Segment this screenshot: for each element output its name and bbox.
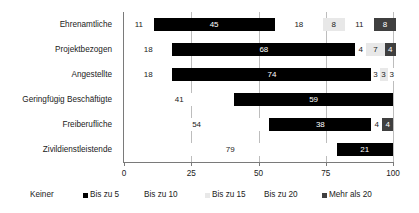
bar-segment-value: 68 xyxy=(259,45,268,54)
tick-mark xyxy=(326,162,327,166)
tick-mark xyxy=(124,162,125,166)
bar-segment: 7 xyxy=(366,43,385,56)
bar-segment: 4 xyxy=(385,43,396,56)
legend-label: Keiner xyxy=(30,190,54,200)
bar-row: 1145188118 xyxy=(124,12,393,37)
bar-row: 1874333 xyxy=(124,62,393,87)
legend-swatch-icon xyxy=(205,193,210,198)
bar-segment: 68 xyxy=(172,43,355,56)
bar-row: 7921 xyxy=(124,137,393,162)
bar-segment: 4 xyxy=(371,118,382,131)
category-label: Angestellte xyxy=(0,70,112,80)
bar-segment: 3 xyxy=(371,68,379,81)
bar-segment: 59 xyxy=(234,93,393,106)
stacked-bar-chart: EhrenamtlicheProjektbezogenAngestellteGe… xyxy=(0,0,419,213)
bar-segment-value: 3 xyxy=(373,70,377,79)
bar-segment: 4 xyxy=(382,118,393,131)
category-label: Freiberufliche xyxy=(0,120,112,130)
legend-swatch-icon xyxy=(83,193,88,198)
legend-label: Bis zu 15 xyxy=(212,190,246,200)
bar-row: 1868474 xyxy=(124,37,393,62)
legend-label: Bis zu 5 xyxy=(90,190,119,200)
bar-segment: 54 xyxy=(124,118,269,131)
legend-label: Bis zu 10 xyxy=(144,190,178,200)
bar-segment-value: 79 xyxy=(226,145,235,154)
tick-mark xyxy=(191,162,192,166)
bar-segment-value: 54 xyxy=(192,120,201,129)
category-label: Ehrenamtliche xyxy=(0,20,112,30)
bar-segment-value: 8 xyxy=(383,20,387,29)
bar-segment-value: 45 xyxy=(210,20,219,29)
legend-item[interactable]: Keiner xyxy=(30,188,54,202)
bar-segment-value: 74 xyxy=(267,70,276,79)
bar-segment-value: 8 xyxy=(332,20,336,29)
x-tick-label: 25 xyxy=(176,169,206,179)
bar-segment: 8 xyxy=(323,18,345,31)
bar-segment: 18 xyxy=(124,68,172,81)
bar-segment: 45 xyxy=(154,18,275,31)
bar-row: 543844 xyxy=(124,112,393,137)
bar-row: 4159 xyxy=(124,87,393,112)
bar-segment-value: 4 xyxy=(358,45,362,54)
bar-segment-value: 11 xyxy=(135,20,143,29)
bar-segment: 3 xyxy=(380,68,388,81)
bar-segment: 79 xyxy=(124,143,337,156)
legend-item[interactable]: Bis zu 20 xyxy=(264,188,298,202)
x-tick-label: 100 xyxy=(378,169,408,179)
bar-segment: 4 xyxy=(355,43,366,56)
bar-segment: 41 xyxy=(124,93,234,106)
bar-segment-value: 38 xyxy=(316,120,325,129)
bar-segment-value: 7 xyxy=(373,45,377,54)
bar-segment-value: 18 xyxy=(144,45,153,54)
bar-segment: 18 xyxy=(124,43,172,56)
legend-label: Bis zu 20 xyxy=(264,190,298,200)
bar-segment: 11 xyxy=(345,18,375,31)
x-tick-label: 75 xyxy=(311,169,341,179)
bar-segment: 74 xyxy=(172,68,371,81)
bar-segment: 8 xyxy=(374,18,396,31)
legend-item[interactable]: Mehr als 20 xyxy=(322,188,372,202)
tick-mark xyxy=(259,162,260,166)
bar-segment-value: 4 xyxy=(385,120,389,129)
bar-segment-value: 11 xyxy=(355,20,363,29)
bar-segment-value: 3 xyxy=(389,70,393,79)
gridline xyxy=(393,12,394,162)
bar-segment-value: 41 xyxy=(175,95,184,104)
bar-segment-value: 18 xyxy=(294,20,303,29)
bar-segment: 18 xyxy=(275,18,323,31)
bar-segment-value: 18 xyxy=(144,70,153,79)
bar-segment-value: 4 xyxy=(388,45,392,54)
bar-segment: 21 xyxy=(337,143,393,156)
chart-legend: KeinerBis zu 5Bis zu 10Bis zu 15Bis zu 2… xyxy=(0,188,419,208)
x-tick-label: 0 xyxy=(109,169,139,179)
legend-item[interactable]: Bis zu 10 xyxy=(144,188,178,202)
bar-segment: 3 xyxy=(388,68,396,81)
bar-segment-value: 4 xyxy=(375,120,379,129)
category-label: Zivildienstleistende xyxy=(0,145,112,155)
legend-label: Mehr als 20 xyxy=(329,190,372,200)
category-label: Geringfügig Beschäftigte xyxy=(0,95,112,105)
bar-segment: 38 xyxy=(269,118,371,131)
bar-segment-value: 59 xyxy=(309,95,318,104)
x-tick-label: 50 xyxy=(244,169,274,179)
legend-item[interactable]: Bis zu 5 xyxy=(83,188,119,202)
legend-item[interactable]: Bis zu 15 xyxy=(205,188,246,202)
category-label: Projektbezogen xyxy=(0,45,112,55)
bar-segment: 11 xyxy=(124,18,154,31)
category-axis-labels: EhrenamtlicheProjektbezogenAngestellteGe… xyxy=(0,12,118,162)
tick-mark xyxy=(393,162,394,166)
bar-segment-value: 3 xyxy=(381,70,385,79)
plot-area: 11451881181868474187433341595438447921 0… xyxy=(124,12,393,162)
legend-swatch-icon xyxy=(322,193,327,198)
bar-segment-value: 21 xyxy=(360,145,369,154)
